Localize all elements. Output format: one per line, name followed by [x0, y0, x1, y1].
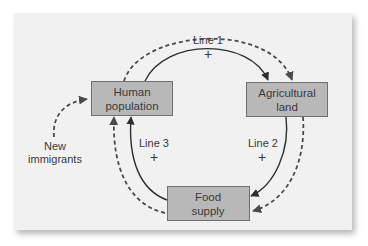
dashed-arrow-food-to-human [114, 117, 165, 213]
new-immigrants-label: immigrants [28, 153, 82, 165]
line3-label: Line 3 [139, 137, 169, 149]
line1-sign: + [204, 46, 212, 62]
new-immigrants-arrow [54, 99, 87, 137]
node-label: Human [113, 86, 150, 98]
node-label: supply [191, 205, 224, 217]
node-human-population: Human population [92, 82, 173, 116]
node-label: Food [195, 191, 221, 203]
node-food-supply: Food supply [168, 187, 250, 221]
node-label: land [276, 101, 298, 113]
node-label: population [105, 100, 158, 112]
node-label: Agricultural [258, 87, 316, 99]
new-immigrants-label: New [44, 140, 66, 152]
line1-label: Line 1 [193, 34, 223, 46]
line3-sign: + [150, 149, 158, 165]
line2-label: Line 2 [248, 137, 278, 149]
node-agricultural-land: Agricultural land [247, 83, 328, 117]
causal-loop-diagram: Human population Agricultural land Food … [0, 0, 368, 246]
line2-arrow [251, 117, 287, 196]
line2-sign: + [258, 149, 266, 165]
line3-arrow [131, 117, 167, 200]
